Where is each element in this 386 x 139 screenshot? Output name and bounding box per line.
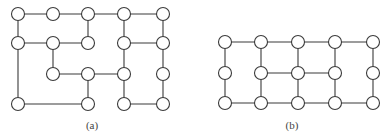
graph-node bbox=[118, 68, 131, 81]
graph-node bbox=[219, 97, 232, 110]
graph-node bbox=[47, 68, 60, 81]
caption-b: (b) bbox=[286, 119, 299, 131]
graph-node bbox=[219, 36, 232, 49]
graph-node bbox=[47, 37, 60, 50]
graph-node bbox=[367, 67, 380, 80]
graph-node bbox=[292, 67, 305, 80]
graph-node bbox=[292, 97, 305, 110]
graph-node bbox=[367, 36, 380, 49]
graph-node bbox=[12, 8, 25, 21]
graph-node bbox=[82, 37, 95, 50]
graph-node bbox=[82, 68, 95, 81]
graph-figure bbox=[0, 0, 386, 139]
graph-node bbox=[118, 98, 131, 111]
graph-node bbox=[118, 8, 131, 21]
graph-node bbox=[157, 68, 170, 81]
graph-node bbox=[219, 67, 232, 80]
graph-node bbox=[118, 37, 131, 50]
caption-a: (a) bbox=[86, 119, 98, 131]
graph-node bbox=[47, 8, 60, 21]
graph-node bbox=[292, 36, 305, 49]
graph-node bbox=[329, 67, 342, 80]
graph-node bbox=[329, 97, 342, 110]
graph-node bbox=[82, 98, 95, 111]
graph-node bbox=[12, 37, 25, 50]
graph-node bbox=[255, 97, 268, 110]
graph-node bbox=[255, 36, 268, 49]
graph-node bbox=[367, 97, 380, 110]
graph-panel-a bbox=[12, 8, 170, 111]
graph-node bbox=[157, 8, 170, 21]
graph-node bbox=[157, 37, 170, 50]
graph-node bbox=[255, 67, 268, 80]
graph-node bbox=[82, 8, 95, 21]
graph-node bbox=[12, 98, 25, 111]
graph-node bbox=[329, 36, 342, 49]
graph-panel-b bbox=[219, 36, 380, 110]
graph-node bbox=[157, 98, 170, 111]
